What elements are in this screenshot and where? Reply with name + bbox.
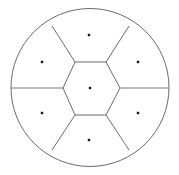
seed-dot-southeast: [137, 112, 139, 114]
seed-dot-northwest: [41, 61, 43, 63]
voronoi-figure: [0, 0, 179, 175]
seed-dot-south: [88, 139, 90, 141]
voronoi-canvas: [0, 0, 179, 175]
seed-dot-northeast: [137, 61, 139, 63]
seed-dot-southwest: [41, 112, 43, 114]
seed-dot-north: [88, 34, 90, 36]
seed-dot-center: [89, 87, 91, 89]
